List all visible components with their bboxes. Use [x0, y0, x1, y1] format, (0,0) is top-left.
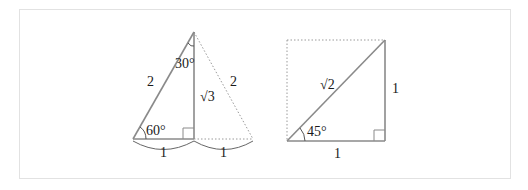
triangle-45-45-90: √2 1 1 45° [287, 40, 399, 161]
angle-30-label: 30° [175, 56, 195, 71]
right-angle-marker [374, 130, 385, 141]
side-label: 1 [392, 81, 399, 96]
base-label: 1 [334, 146, 341, 161]
base-right-label: 1 [220, 145, 227, 160]
height-label: √3 [200, 89, 215, 104]
angle-30-arc [188, 43, 194, 46]
angle-45-arc [300, 128, 305, 141]
diagonal-line [287, 40, 385, 141]
base-left-label: 1 [160, 145, 167, 160]
mirror-hypotenuse-dotted [194, 32, 253, 139]
special-triangles-diagram: 2 2 √3 30° 60° 1 1 √2 1 1 45° [0, 0, 528, 190]
mirror-hypotenuse-label: 2 [230, 74, 237, 89]
right-angle-marker [183, 128, 194, 139]
hypotenuse-label: 2 [147, 74, 154, 89]
angle-60-label: 60° [146, 123, 166, 138]
triangle-30-60-90: 2 2 √3 30° 60° 1 1 [133, 32, 253, 160]
diagonal-label: √2 [320, 77, 335, 92]
angle-45-label: 45° [307, 124, 327, 139]
